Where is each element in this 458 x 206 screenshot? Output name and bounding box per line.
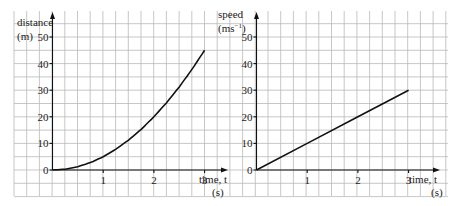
x-tick-label: 2 — [151, 174, 157, 186]
distance-time-graph: distance (m) time, t (s) — [17, 16, 227, 199]
y-tick-label: 20 — [242, 111, 254, 123]
y-tick-label: 40 — [38, 58, 50, 70]
x-axis-arrow-icon — [433, 168, 440, 173]
y-tick-label: 10 — [242, 137, 254, 149]
x-axis-unit: (s) — [212, 186, 224, 199]
y-axis-arrow-icon — [254, 12, 259, 19]
y-tick-label: 20 — [38, 111, 50, 123]
x-tick-label: 3 — [406, 174, 412, 186]
x-tick-label: 2 — [355, 174, 361, 186]
kinematics-graphs: distance (m) time, t (s) speed (ms−1) ti… — [0, 0, 458, 206]
y-tick-label: 50 — [38, 31, 50, 43]
y-tick-label: 10 — [38, 137, 50, 149]
y-axis-label: speed — [218, 8, 244, 20]
x-axis-label-text: time, t — [409, 173, 437, 185]
y-tick-label: 40 — [242, 58, 254, 70]
data-curves — [53, 50, 409, 170]
y-tick-label: 0 — [247, 164, 253, 176]
y-tick-label: 30 — [38, 84, 50, 96]
x-axis-label: time, t — [409, 173, 437, 185]
y-tick-label: 30 — [242, 84, 254, 96]
chart-canvas: distance (m) time, t (s) speed (ms−1) ti… — [0, 0, 458, 206]
x-tick-label: 3 — [202, 174, 208, 186]
y-tick-label: 0 — [43, 164, 49, 176]
y-axis-label: distance — [17, 16, 53, 28]
x-axis-arrow-icon — [221, 168, 228, 173]
x-tick-label: 1 — [304, 174, 310, 186]
y-axis-unit: (m) — [17, 30, 33, 43]
x-tick-label: 1 — [100, 174, 106, 186]
y-tick-label: 50 — [242, 31, 254, 43]
x-axis-unit: (s) — [431, 186, 443, 199]
